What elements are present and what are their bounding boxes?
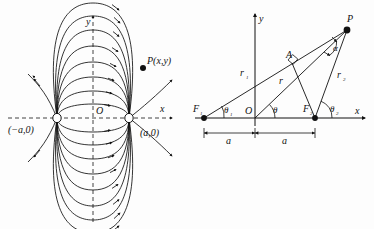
focus-right-marker bbox=[312, 115, 318, 121]
svg-text:1: 1 bbox=[200, 111, 203, 116]
dimension-left-label: a bbox=[226, 135, 231, 146]
right-x-axis-label: x bbox=[354, 105, 360, 116]
foot-a-label: A bbox=[285, 49, 293, 60]
svg-text:1: 1 bbox=[230, 112, 233, 117]
field-arrowheads-upper bbox=[104, 5, 120, 106]
geometry-construction-diagram: y x O P A F 1 F 2 r 1 r r 2 θ 1 θ θ 2 α … bbox=[187, 0, 374, 229]
alpha-label: α bbox=[333, 43, 338, 53]
theta-label: θ bbox=[273, 105, 278, 115]
charge-left-marker bbox=[53, 113, 61, 122]
left-x-axis-label: x bbox=[159, 103, 165, 114]
svg-text:F: F bbox=[192, 103, 200, 114]
r-label: r bbox=[279, 75, 283, 86]
charge-right-label: (a,0) bbox=[140, 127, 160, 139]
point-p-marker bbox=[344, 27, 351, 34]
right-origin-label: O bbox=[245, 105, 252, 116]
svg-text:r: r bbox=[337, 69, 341, 80]
dimension-right-label: a bbox=[282, 135, 287, 146]
svg-text:θ: θ bbox=[330, 104, 335, 114]
svg-text:2: 2 bbox=[336, 111, 339, 116]
svg-text:F: F bbox=[302, 103, 310, 114]
right-y-axis-label: y bbox=[258, 13, 264, 24]
left-origin-label: O bbox=[96, 105, 103, 116]
figure-canvas: y x O (−a,0) (a,0) P(x,y) bbox=[0, 0, 374, 229]
r2-label: r 2 bbox=[337, 69, 346, 82]
r1-label: r 1 bbox=[240, 67, 249, 80]
svg-text:2: 2 bbox=[343, 77, 346, 82]
charge-right-marker bbox=[125, 113, 133, 122]
svg-text:r: r bbox=[240, 67, 244, 78]
svg-text:θ: θ bbox=[224, 105, 229, 115]
point-p-marker bbox=[140, 65, 146, 71]
theta1-label: θ 1 bbox=[224, 105, 233, 117]
focus-left-label: F 1 bbox=[192, 103, 203, 116]
charge-left-label: (−a,0) bbox=[8, 124, 35, 136]
theta2-label: θ 2 bbox=[330, 104, 339, 116]
dipole-field-diagram: y x O (−a,0) (a,0) P(x,y) bbox=[0, 0, 187, 229]
svg-text:1: 1 bbox=[246, 75, 249, 80]
left-y-axis-label: y bbox=[85, 16, 91, 27]
point-p-label: P bbox=[346, 13, 353, 24]
point-p-label: P(x,y) bbox=[146, 55, 172, 67]
